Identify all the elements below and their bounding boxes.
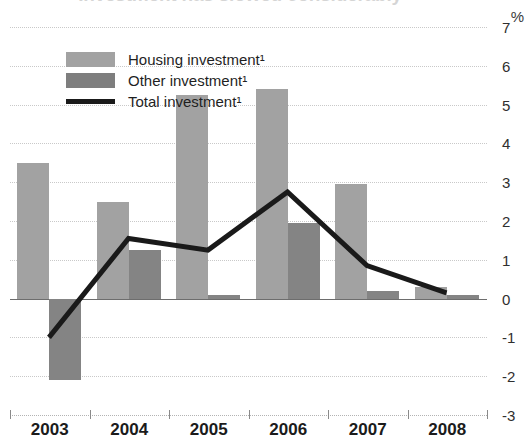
chart-legend: Housing investment¹ Other investment¹ To… <box>66 49 265 112</box>
x-axis-label-2007: 2007 <box>349 420 387 440</box>
x-axis-tick <box>328 410 329 419</box>
x-axis-tick <box>90 410 91 419</box>
y-axis-tick-label: 1 <box>502 251 510 268</box>
x-axis-tick <box>487 410 488 419</box>
y-axis-tick-label: 0 <box>502 290 510 307</box>
x-axis-tick <box>249 410 250 419</box>
x-axis-tick <box>408 410 409 419</box>
total-investment-polyline <box>49 192 447 338</box>
x-axis-label-2005: 2005 <box>190 420 228 440</box>
legend-label-total: Total investment¹ <box>128 93 241 110</box>
y-axis-tick-label: -2 <box>502 368 515 385</box>
y-axis-tick-label: 5 <box>502 96 510 113</box>
legend-label-other: Other investment¹ <box>128 72 247 89</box>
x-axis-label-2003: 2003 <box>31 420 69 440</box>
legend-label-housing: Housing investment¹ <box>128 51 265 68</box>
legend-item-total: Total investment¹ <box>66 91 265 112</box>
y-axis-tick-label: 6 <box>502 57 510 74</box>
other-swatch-icon <box>66 73 115 88</box>
y-axis-tick-label: -1 <box>502 329 515 346</box>
legend-item-other: Other investment¹ <box>66 70 265 91</box>
y-axis-tick-label: 2 <box>502 213 510 230</box>
y-axis-tick-label: 7 <box>502 19 510 36</box>
x-axis-label-2008: 2008 <box>428 420 466 440</box>
y-axis-tick-label: 4 <box>502 135 510 152</box>
investment-chart-figure: Investment has slowed considerably % 765… <box>0 0 530 444</box>
y-axis-tick-label: 3 <box>502 174 510 191</box>
page-title: Investment has slowed considerably <box>0 0 480 6</box>
total-line-swatch-icon <box>66 94 115 109</box>
x-axis-label-2006: 2006 <box>269 420 307 440</box>
x-axis-tick <box>169 410 170 419</box>
housing-swatch-icon <box>66 52 115 67</box>
y-axis-unit-label: % <box>511 8 524 25</box>
x-axis-tick <box>10 410 11 419</box>
x-axis-label-2004: 2004 <box>110 420 148 440</box>
legend-item-housing: Housing investment¹ <box>66 49 265 70</box>
y-axis-tick-label: -3 <box>502 407 515 424</box>
